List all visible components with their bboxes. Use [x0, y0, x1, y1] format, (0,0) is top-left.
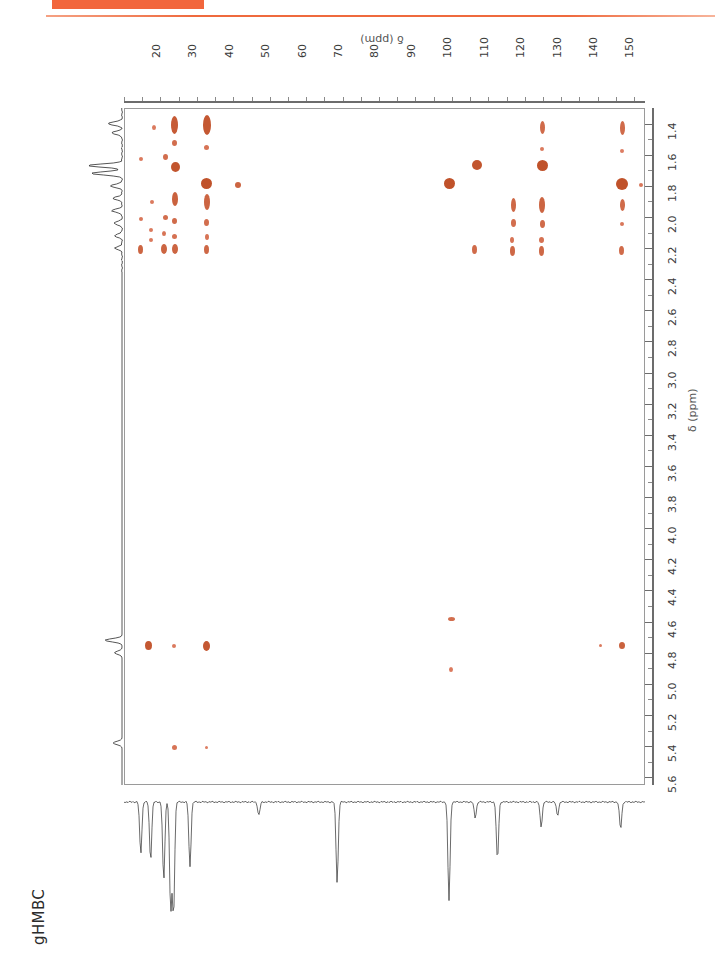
proton-tick-label: 3.4 — [666, 433, 679, 451]
proton-tick-major — [645, 528, 653, 529]
cross-peak[interactable] — [620, 199, 625, 211]
cross-peak[interactable] — [449, 667, 453, 672]
proton-tick-minor — [648, 419, 652, 420]
proton-projection-trace — [89, 108, 123, 785]
proton-tick-major — [645, 622, 653, 623]
carbon-projection-trace — [124, 801, 645, 911]
proton-axis-title: δ (ppm) — [686, 389, 699, 433]
carbon-tick-minor — [270, 97, 271, 101]
proton-tick-minor — [648, 357, 652, 358]
carbon-tick-label: 100 — [441, 37, 454, 58]
cross-peak[interactable] — [620, 121, 625, 135]
proton-tick-minor — [648, 139, 652, 140]
carbon-tick-minor — [233, 97, 234, 101]
proton-tick-major — [645, 217, 653, 218]
carbon-tick-minor — [579, 97, 580, 101]
cross-peak[interactable] — [511, 219, 516, 227]
proton-tick-major — [645, 404, 653, 405]
cross-peak[interactable] — [171, 162, 180, 172]
cross-peak[interactable] — [204, 245, 209, 254]
proton-tick-minor — [648, 170, 652, 171]
proton-tick-label: 2.8 — [666, 340, 679, 358]
carbon-tick-minor — [288, 97, 289, 101]
carbon-tick-minor — [142, 97, 143, 101]
proton-tick-label: 5.4 — [666, 745, 679, 763]
cross-peak[interactable] — [510, 246, 515, 256]
cross-peak[interactable] — [149, 228, 153, 232]
cross-peak[interactable] — [171, 116, 178, 134]
cross-peak[interactable] — [149, 238, 153, 242]
cross-peak[interactable] — [537, 160, 548, 171]
cross-peak[interactable] — [172, 192, 178, 206]
proton-tick-label: 1.4 — [666, 122, 679, 140]
proton-tick-major — [645, 248, 653, 249]
carbon-tick-minor — [306, 97, 307, 101]
cross-peak[interactable] — [172, 140, 177, 146]
proton-tick-major — [645, 310, 653, 311]
proton-tick-label: 3.2 — [666, 402, 679, 420]
proton-tick-minor — [648, 575, 652, 576]
proton-tick-major — [645, 559, 653, 560]
cross-peak[interactable] — [472, 160, 482, 170]
cross-peak[interactable] — [616, 178, 628, 190]
proton-tick-major — [645, 715, 653, 716]
proton-tick-major — [645, 155, 653, 156]
carbon-tick-minor — [488, 97, 489, 101]
spectrum-plot-area[interactable] — [124, 108, 645, 785]
carbon-tick-minor — [160, 97, 161, 101]
carbon-tick-minor — [379, 97, 380, 101]
proton-tick-label: 5.2 — [666, 713, 679, 731]
carbon-axis-line — [124, 101, 645, 103]
carbon-tick-label: 90 — [405, 44, 418, 58]
carbon-tick-label: 120 — [514, 37, 527, 58]
proton-tick-label: 3.6 — [666, 464, 679, 482]
carbon-tick-minor — [616, 97, 617, 101]
carbon-tick-minor — [197, 97, 198, 101]
proton-tick-label: 4.8 — [666, 651, 679, 669]
proton-tick-label: 2.4 — [666, 278, 679, 296]
carbon-tick-label: 30 — [186, 44, 199, 58]
proton-tick-major — [645, 746, 653, 747]
carbon-tick-label: 150 — [623, 37, 636, 58]
proton-tick-minor — [648, 450, 652, 451]
cross-peak[interactable] — [172, 244, 178, 254]
proton-tick-minor — [648, 731, 652, 732]
proton-tick-minor — [648, 295, 652, 296]
proton-tick-minor — [648, 637, 652, 638]
cross-peak[interactable] — [138, 245, 143, 254]
proton-tick-major — [645, 341, 653, 342]
cross-peak[interactable] — [205, 234, 209, 240]
carbon-tick-minor — [598, 97, 599, 101]
proton-tick-label: 4.0 — [666, 527, 679, 545]
cross-peak[interactable] — [203, 115, 211, 135]
proton-tick-label: 5.6 — [666, 776, 679, 794]
carbon-tick-minor — [324, 97, 325, 101]
cross-peak[interactable] — [511, 198, 516, 212]
ghmbc-spectrum-figure: δ (ppm) 20304050607080901001101201301401… — [0, 0, 715, 964]
carbon-tick-label: 140 — [587, 37, 600, 58]
cross-peak[interactable] — [172, 745, 177, 750]
proton-tick-minor — [648, 233, 652, 234]
cross-peak[interactable] — [444, 178, 455, 189]
proton-tick-label: 1.6 — [666, 153, 679, 171]
proton-tick-major — [645, 124, 653, 125]
cross-peak[interactable] — [163, 154, 168, 160]
carbon-tick-minor — [252, 97, 253, 101]
proton-tick-major — [645, 373, 653, 374]
carbon-tick-minor — [561, 97, 562, 101]
proton-tick-label: 4.6 — [666, 620, 679, 638]
carbon-tick-label: 130 — [551, 37, 564, 58]
carbon-tick-minor — [507, 97, 508, 101]
proton-tick-label: 1.8 — [666, 184, 679, 202]
cross-peak[interactable] — [540, 121, 545, 134]
proton-tick-major — [645, 279, 653, 280]
cross-peak[interactable] — [540, 220, 545, 228]
cross-peak[interactable] — [639, 183, 643, 187]
carbon-tick-minor — [124, 97, 125, 101]
proton-1d-projection — [84, 108, 124, 785]
cross-peak[interactable] — [539, 246, 544, 256]
carbon-tick-minor — [343, 97, 344, 101]
carbon-tick-minor — [634, 97, 635, 101]
carbon-tick-label: 50 — [259, 44, 272, 58]
cross-peak[interactable] — [539, 237, 544, 243]
